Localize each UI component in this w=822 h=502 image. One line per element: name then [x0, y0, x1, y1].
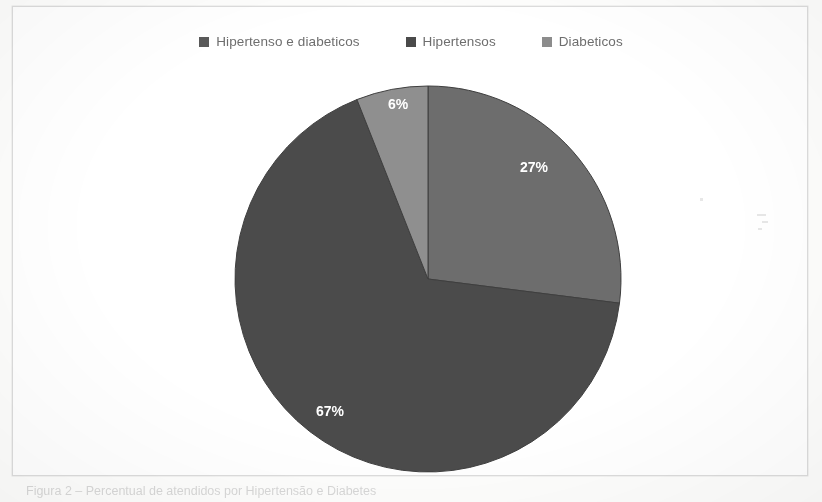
scan-speckle: [762, 221, 768, 223]
scan-speckle: [758, 228, 762, 230]
pie-slice-hipertensos[interactable]: [428, 86, 621, 303]
chart-frame: Hipertenso e diabeticos Hipertensos Diab…: [12, 6, 808, 476]
pie-slice-value-label: 67%: [316, 403, 345, 419]
pie-chart-plot-area: 27%67%6%: [13, 7, 809, 477]
pie-chart-svg: 27%67%6%: [13, 7, 809, 477]
scan-speckle: [700, 198, 703, 201]
figure-caption: Figura 2 – Percentual de atendidos por H…: [26, 484, 586, 499]
scan-speckle: [757, 214, 766, 216]
pie-slice-group: [235, 86, 621, 472]
pie-slice-value-label: 27%: [520, 159, 549, 175]
pie-slice-value-label: 6%: [388, 96, 409, 112]
